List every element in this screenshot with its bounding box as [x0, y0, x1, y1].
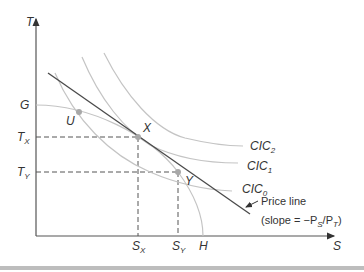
- label-sy: SY: [172, 239, 186, 255]
- price-line-pointer: [246, 201, 258, 207]
- cic1-curve: [82, 57, 238, 163]
- label-g: G: [20, 98, 29, 112]
- label-x: X: [142, 121, 152, 135]
- price-line-label: Price line: [261, 195, 306, 207]
- price-line: [48, 73, 250, 214]
- price-line-slope: (slope = −PS/PT): [261, 214, 342, 229]
- trade-diagram: T S G H U X Y TX TY SX SY CIC2 CIC1 CIC0…: [0, 0, 364, 272]
- y-axis-label: T: [26, 15, 35, 29]
- x-axis-label: S: [333, 239, 341, 253]
- point-y: [175, 169, 181, 175]
- point-x: [135, 134, 141, 140]
- label-y: Y: [185, 174, 194, 188]
- label-h: H: [199, 239, 208, 253]
- label-tx: TX: [17, 130, 30, 146]
- cic2-curve: [104, 53, 243, 146]
- label-ty: TY: [17, 165, 30, 181]
- label-cic1: CIC1: [247, 159, 272, 175]
- label-cic2: CIC2: [250, 139, 276, 155]
- point-u: [76, 109, 82, 115]
- label-sx: SX: [132, 239, 146, 255]
- bottom-divider: [0, 266, 364, 270]
- label-u: U: [66, 114, 75, 128]
- dashed-guides: [36, 137, 178, 236]
